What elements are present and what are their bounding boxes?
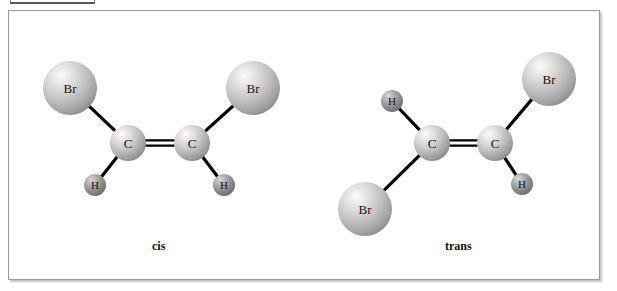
caption-cis: cis [152,239,165,254]
clipped-top-box [10,0,95,4]
figure-frame [8,10,600,280]
caption-trans: trans [445,239,472,254]
